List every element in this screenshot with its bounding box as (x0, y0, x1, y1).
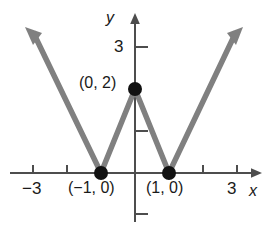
y-axis-label: y (106, 10, 114, 26)
x-tick-label-neg3: −3 (22, 180, 41, 197)
point-marker-neg1-0 (94, 166, 108, 180)
annotation-point-0-2: (0, 2) (79, 75, 116, 91)
x-axis-label: x (249, 183, 257, 199)
annotation-point-1-0: (1, 0) (146, 180, 183, 196)
point-marker-1-0 (162, 166, 176, 180)
x-tick-label-3: 3 (227, 180, 236, 197)
graph-figure: y x 3 −3 3 (0, 2) (−1, 0) (1, 0) (0, 0, 268, 228)
x-axis-arrowhead (251, 168, 262, 178)
y-axis-arrowhead (130, 13, 140, 24)
annotation-point-neg1-0: (−1, 0) (68, 180, 115, 196)
point-marker-0-2 (128, 82, 142, 96)
y-tick-label-3: 3 (114, 38, 123, 55)
